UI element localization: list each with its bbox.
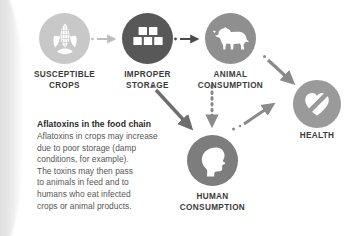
connector-dot2-human-health (239, 125, 241, 127)
health-label: HEALTH (285, 131, 349, 142)
corn-icon (50, 22, 80, 56)
connector-dot-storage-animal (174, 38, 177, 41)
connector-dot-animal-health (263, 55, 266, 58)
caption-block: Aflatoxins in the food chain Aflatoxins … (37, 118, 189, 212)
cow-icon (212, 25, 250, 53)
heart-slash-icon (302, 89, 332, 119)
infographic-canvas: SUSCEPTIBLE CROPS IMPROPER STORAGE (0, 0, 350, 236)
caption-body: Aflatoxins in crops may increase due to … (37, 131, 189, 212)
stacked-boxes-icon (132, 26, 164, 52)
human-consumption-circle (187, 135, 238, 186)
improper-storage-circle (122, 13, 173, 64)
animal-consumption-circle (205, 13, 256, 64)
connector-human-to-health (244, 105, 272, 124)
connector-dot-human-health (232, 128, 235, 131)
health-circle (293, 80, 341, 128)
animal-consumption-label: ANIMAL CONSUMPTION (182, 70, 279, 91)
susceptible-crops-circle (39, 13, 90, 64)
human-head-icon (199, 145, 227, 177)
caption-title: Aflatoxins in the food chain (37, 118, 189, 130)
connector-dot-crops-storage (91, 38, 94, 41)
